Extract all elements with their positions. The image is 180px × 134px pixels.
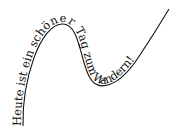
curved-text-path: Heute ist ein schöner Tag zum Wandern!	[10, 11, 137, 126]
text-on-path-figure: Heute ist ein schöner Tag zum Wandern!	[0, 0, 180, 134]
curved-text: Heute ist ein schöner Tag zum Wandern!	[10, 11, 137, 126]
